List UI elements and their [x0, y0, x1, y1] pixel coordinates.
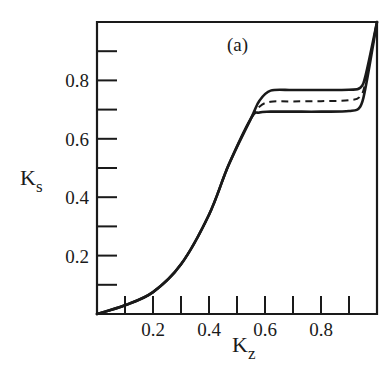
y-axis-tick-labels: 0.20.40.60.8: [65, 70, 89, 266]
series-middle-line: [97, 22, 377, 314]
chart-figure: 0.20.40.60.8 0.20.40.60.8 (a) Ks Kz: [0, 0, 391, 371]
series-lower-line: [97, 22, 377, 314]
x-tick-label: 0.6: [253, 319, 277, 340]
x-axis-ticks: [125, 296, 349, 314]
y-axis-label: Ks: [20, 165, 43, 196]
data-series: [97, 22, 377, 314]
panel-label: (a): [227, 34, 248, 56]
y-tick-label: 0.4: [65, 187, 89, 208]
plot-frame: [97, 22, 377, 314]
x-tick-label: 0.4: [197, 319, 221, 340]
y-tick-label: 0.2: [65, 246, 89, 267]
series-upper-line: [97, 22, 377, 314]
y-tick-label: 0.8: [65, 70, 89, 91]
y-tick-label: 0.6: [65, 129, 89, 150]
line-chart: 0.20.40.60.8 0.20.40.60.8 (a) Ks Kz: [0, 0, 391, 371]
axes-frame: [97, 22, 377, 314]
x-tick-label: 0.2: [141, 319, 165, 340]
x-tick-label: 0.8: [309, 319, 333, 340]
y-axis-ticks: [97, 51, 117, 285]
